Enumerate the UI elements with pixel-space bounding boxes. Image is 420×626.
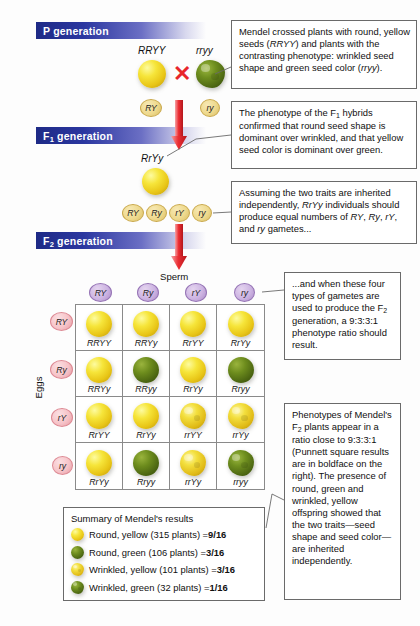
punnett-cell-genotype: rrYY	[184, 430, 202, 440]
punnett-cell: RRYy	[76, 351, 123, 397]
p-generation-label: P generation	[43, 25, 109, 37]
punnett-cell: RRYY	[76, 305, 123, 351]
callout-2: The phenotype of the F1 hybrids confirme…	[231, 101, 417, 169]
seed-round-yellow	[180, 357, 206, 383]
f1-gamete-3: ry	[192, 204, 212, 222]
seed-wrinkled-green	[71, 581, 84, 594]
sperm-gamete-3: ry	[234, 283, 255, 302]
parent-left-seed-round-yellow	[138, 60, 166, 88]
callout-4: ...and when these four types of gametes …	[284, 272, 401, 360]
seed-round-yellow	[133, 311, 159, 337]
f1-generation-label: F1 generation	[43, 130, 113, 142]
seed-wrinkled-yellow	[228, 403, 254, 429]
punnett-cell: RrYy	[76, 443, 123, 489]
parent-right-gamete: ry	[200, 99, 220, 117]
summary-box: Summary of Mendel's results Round, yello…	[63, 507, 265, 601]
punnett-cell: rrYy	[217, 397, 264, 443]
callout-5: Phenotypes of Mendel's F2 plants appear …	[284, 403, 401, 600]
punnett-cell-seed	[133, 450, 159, 476]
punnett-cell: RrYY	[170, 305, 217, 351]
punnett-cell-genotype: RRYy	[135, 338, 158, 348]
parent-left-genotype: RRYY	[138, 45, 165, 56]
parent-right-seed-wrinkled-green	[196, 60, 225, 88]
figure-canvas: P generation F1 generation F2 generation…	[0, 0, 420, 626]
punnett-cell-seed	[86, 357, 112, 383]
punnett-cell-genotype: RrYy	[231, 338, 251, 348]
summary-row-text: Round, green (106 plants) =	[89, 547, 206, 558]
summary-row-text: Wrinkled, green (32 plants) =	[89, 582, 209, 593]
seed-round-yellow	[71, 528, 84, 541]
summary-row-seed	[71, 528, 84, 541]
f2-generation-label: F2 generation	[43, 235, 113, 247]
punnett-cell-seed	[86, 311, 112, 337]
punnett-cell-seed	[133, 311, 159, 337]
summary-row: Round, green (106 plants) = 3/16	[71, 546, 257, 559]
summary-row: Wrinkled, yellow (101 plants) = 3/16	[71, 563, 257, 576]
f1-genotype: RrYy	[141, 153, 163, 164]
punnett-cell-seed	[133, 403, 159, 429]
summary-row-ratio: 3/16	[217, 564, 235, 575]
punnett-cell-genotype: RRYY	[87, 338, 111, 348]
punnett-cell-genotype: Rryy	[137, 477, 155, 487]
summary-row-seed	[71, 546, 84, 559]
f1-gamete-2: rY	[169, 204, 190, 222]
punnett-cell-genotype: RrYy	[136, 430, 156, 440]
punnett-cell-seed	[133, 357, 159, 383]
egg-gamete-1: Ry	[50, 360, 73, 379]
seed-wrinkled-green	[228, 450, 254, 476]
punnett-cell-genotype: RrYy	[183, 384, 203, 394]
punnett-cell-seed	[228, 403, 254, 429]
arrow-f1-to-f2	[168, 224, 192, 270]
punnett-cell-seed	[180, 403, 206, 429]
f1-gamete-1: Ry	[146, 204, 167, 222]
punnett-cell: rrYY	[170, 397, 217, 443]
punnett-cell: RrYy	[170, 351, 217, 397]
callout-1: Mendel crossed plants with round, yellow…	[231, 20, 417, 89]
punnett-cell-genotype: rrYy	[232, 430, 248, 440]
punnett-cell: RRyy	[123, 351, 170, 397]
sperm-gamete-1: Ry	[137, 283, 159, 302]
punnett-cell: RRYy	[123, 305, 170, 351]
seed-round-yellow	[86, 311, 112, 337]
seed-round-green	[228, 357, 254, 383]
summary-row: Wrinkled, green (32 plants) = 1/16	[71, 581, 257, 594]
seed-round-yellow	[86, 403, 112, 429]
cross-symbol: ✕	[173, 63, 191, 85]
seed-round-yellow	[228, 311, 254, 337]
punnett-cell: rrYy	[170, 443, 217, 489]
punnett-cell: rryy	[217, 443, 264, 489]
summary-title: Summary of Mendel's results	[71, 513, 257, 524]
sperm-axis-label: Sperm	[160, 271, 188, 282]
punnett-cell: RrYY	[76, 397, 123, 443]
summary-rows: Round, yellow (315 plants) = 9/16Round, …	[71, 528, 257, 594]
f1-seed-round-yellow	[142, 168, 169, 195]
p-generation-bar: P generation	[36, 22, 206, 39]
seed-wrinkled-yellow	[180, 403, 206, 429]
punnett-cell-seed	[228, 450, 254, 476]
egg-gamete-2: rY	[51, 408, 73, 427]
punnett-cell-seed	[180, 450, 206, 476]
seed-wrinkled-yellow	[180, 450, 206, 476]
egg-gamete-0: RY	[50, 312, 73, 331]
seed-round-yellow	[180, 311, 206, 337]
punnett-cell: Rryy	[123, 443, 170, 489]
seed-round-green	[133, 450, 159, 476]
summary-row-seed	[71, 581, 84, 594]
summary-row-seed	[71, 563, 84, 576]
punnett-square-grid: RRYYRRYyRrYYRrYyRRYyRRyyRrYyRryyRrYYRrYy…	[75, 304, 265, 490]
seed-round-yellow	[133, 403, 159, 429]
sperm-gamete-0: RY	[89, 283, 112, 302]
seed-wrinkled-yellow	[71, 563, 84, 576]
punnett-cell-seed	[228, 357, 254, 383]
punnett-cell-genotype: RRYy	[88, 384, 111, 394]
summary-row-text: Wrinkled, yellow (101 plants) =	[89, 564, 217, 575]
summary-row-ratio: 1/16	[209, 582, 227, 593]
arrow-p-to-f1	[168, 100, 192, 150]
punnett-cell-genotype: rrYy	[185, 477, 201, 487]
punnett-cell-genotype: RrYy	[89, 477, 109, 487]
summary-row: Round, yellow (315 plants) = 9/16	[71, 528, 257, 541]
summary-row-ratio: 3/16	[206, 547, 224, 558]
punnett-cell-seed	[86, 403, 112, 429]
egg-gamete-3: ry	[52, 456, 73, 475]
seed-round-green	[133, 357, 159, 383]
